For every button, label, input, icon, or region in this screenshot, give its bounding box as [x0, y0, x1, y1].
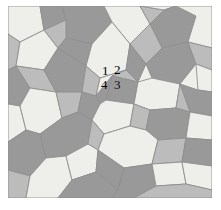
tile-label-2: 2 [114, 63, 121, 76]
margin-bottom [0, 198, 221, 210]
tile-plate [8, 6, 212, 198]
tiling-canvas [0, 0, 221, 210]
margin-top [0, 0, 221, 6]
tiling-figure: 1 2 4 3 [0, 0, 221, 210]
tile-light [186, 112, 212, 140]
tile-group [8, 6, 212, 198]
tile-medium [152, 138, 186, 164]
tile-light [134, 78, 180, 110]
tile-dark [182, 138, 212, 166]
margin-left [0, 0, 8, 210]
margin-right [212, 0, 221, 210]
tile-light [152, 162, 186, 186]
tile-label-1: 1 [102, 64, 109, 77]
tile-label-3: 3 [114, 78, 121, 91]
tile-label-4: 4 [101, 78, 108, 91]
